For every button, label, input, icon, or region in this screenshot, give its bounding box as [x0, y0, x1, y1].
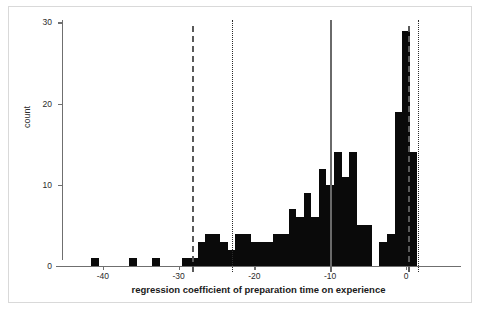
histogram-bar: [410, 152, 418, 266]
histogram-bar: [387, 234, 395, 266]
x-tick--40: [103, 266, 104, 270]
reference-line-lower-inner-dotted: [232, 20, 233, 272]
y-axis-line: [62, 20, 63, 260]
reference-line-upper-ci-dashed: [408, 26, 410, 272]
y-tick-label-0: 0: [30, 262, 52, 270]
histogram-bar: [281, 234, 289, 266]
histogram-bar: [152, 258, 160, 266]
y-tick-label-20: 20: [30, 100, 52, 108]
histogram-bar: [258, 242, 266, 266]
plot-area: 0102030-40-30-20-100 count regression co…: [0, 0, 481, 311]
histogram-bar: [357, 225, 365, 266]
reference-line-point-estimate-solid: [330, 20, 332, 272]
reference-line-upper-inner-dotted: [418, 20, 419, 272]
y-tick-20: [58, 104, 62, 105]
y-tick-label-10: 10: [30, 181, 52, 189]
x-axis-line: [56, 266, 461, 267]
y-axis-title: count: [22, 106, 32, 128]
histogram-bar: [266, 242, 274, 266]
histogram-bar: [342, 177, 350, 266]
histogram-bar: [334, 152, 342, 266]
histogram-bar: [379, 242, 387, 266]
x-tick-label--20: -20: [239, 272, 269, 281]
histogram-bar: [235, 234, 243, 266]
y-tick-label-30: 30: [30, 18, 52, 26]
histogram-bar: [273, 234, 281, 266]
y-tick-30: [58, 22, 62, 23]
histogram-bar: [395, 112, 403, 266]
x-tick--20: [254, 266, 255, 270]
histogram-bar: [319, 169, 327, 266]
histogram-bar: [91, 258, 99, 266]
histogram-bar: [289, 209, 297, 266]
histogram-bar: [205, 234, 213, 266]
histogram-bar: [182, 258, 190, 266]
histogram-bar: [243, 234, 251, 266]
histogram-bar: [364, 225, 372, 266]
y-tick-10: [58, 185, 62, 186]
histogram-bar: [304, 193, 312, 266]
histogram-bar: [213, 234, 221, 266]
histogram-bar: [220, 242, 228, 266]
x-tick-label--40: -40: [88, 272, 118, 281]
x-tick-label--10: -10: [315, 272, 345, 281]
histogram-bar: [129, 258, 137, 266]
x-tick-label--30: -30: [164, 272, 194, 281]
histogram-bar: [311, 217, 319, 266]
y-tick-0: [58, 266, 62, 267]
histogram-bar: [349, 152, 357, 266]
figure-container: 0102030-40-30-20-100 count regression co…: [0, 0, 481, 311]
histogram-bar: [296, 217, 304, 266]
reference-line-lower-ci-dashed: [192, 26, 194, 272]
x-tick--30: [179, 266, 180, 270]
x-tick-label-0: 0: [391, 272, 421, 281]
x-axis-title: regression coefficient of preparation ti…: [56, 284, 461, 295]
histogram-bar: [251, 242, 259, 266]
histogram-bar: [198, 242, 206, 266]
